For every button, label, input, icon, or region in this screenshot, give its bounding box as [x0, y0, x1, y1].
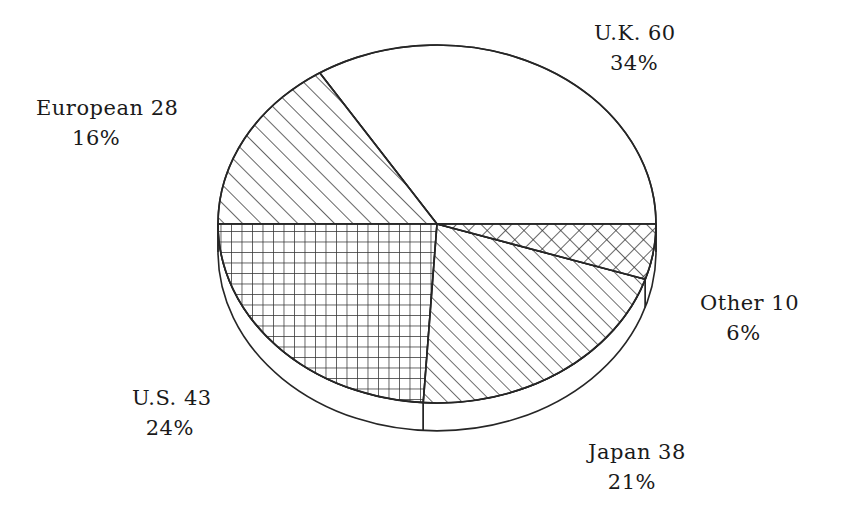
pie-slice-us[interactable] [218, 224, 437, 403]
slice-label-other-percent: 6% [700, 318, 799, 348]
slice-label-us-percent: 24% [132, 413, 212, 443]
pie-body [218, 45, 656, 431]
pie-chart-figure: U.K. 60 34% European 28 16% U.S. 43 24% … [0, 0, 852, 530]
slice-label-us: U.S. 43 24% [132, 383, 212, 443]
pie-chart-canvas [0, 0, 852, 530]
slice-label-japan-percent: 21% [588, 467, 686, 497]
slice-label-other: Other 10 6% [700, 288, 799, 348]
slice-label-uk-value: U.K. 60 [594, 18, 676, 48]
slice-label-european-percent: 16% [36, 123, 178, 153]
slice-label-european: European 28 16% [36, 93, 178, 153]
slice-label-uk-percent: 34% [594, 48, 676, 78]
slice-label-uk: U.K. 60 34% [594, 18, 676, 78]
slice-label-european-value: European 28 [36, 93, 178, 123]
slice-label-us-value: U.S. 43 [132, 383, 212, 413]
slice-label-japan: Japan 38 21% [588, 437, 686, 497]
slice-label-japan-value: Japan 38 [588, 437, 686, 467]
slice-label-other-value: Other 10 [700, 288, 799, 318]
